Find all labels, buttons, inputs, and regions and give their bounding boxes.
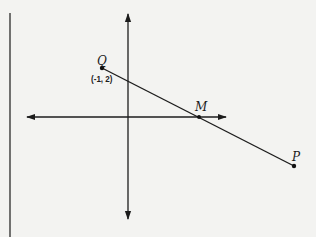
point-p-label: P: [292, 151, 300, 163]
point-m-label: M: [195, 101, 207, 113]
coordinate-diagram: [0, 0, 316, 237]
point-q-label: Q: [97, 55, 107, 67]
point-m-dot: [197, 115, 201, 119]
point-q-coordinates: (-1, 2): [91, 74, 113, 84]
point-p-dot: [292, 164, 296, 168]
